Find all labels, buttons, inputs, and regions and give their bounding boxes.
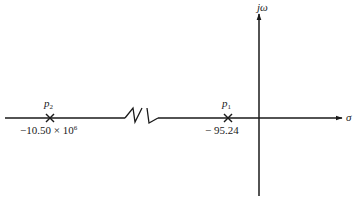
pole-p1-value: − 95.24 <box>205 125 239 136</box>
axis-break-zigzag-icon <box>125 108 142 122</box>
pole-p2-value: −10.50 × 106 <box>20 125 77 136</box>
imaginary-axis-label: jω <box>257 2 268 13</box>
pole-p2-subscript: 2 <box>50 103 54 111</box>
pole-p2-value-exponent: 6 <box>74 124 78 132</box>
pole-p1-label: p1 <box>222 98 231 111</box>
real-axis-label: σ <box>346 112 351 123</box>
axis-break-zigzag-icon <box>147 108 158 123</box>
pole-p1-subscript: 1 <box>228 103 232 111</box>
pole-p2-label: p2 <box>44 98 53 111</box>
pole-p2-value-text: −10.50 × 10 <box>20 124 74 136</box>
s-plane-diagram <box>0 0 357 204</box>
